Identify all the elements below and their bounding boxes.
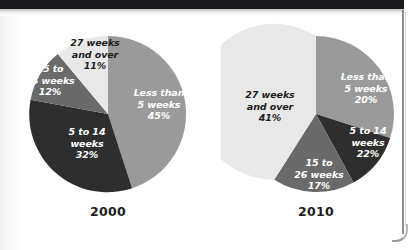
scan-top-band xyxy=(0,0,404,9)
pie-2000-graphic: Less than 5 weeks 45% 5 to 14 weeks 32% … xyxy=(13,9,203,195)
pie-2010-graphic: Less than 5 weeks 20% 5 to 14 weeks 22% … xyxy=(221,9,411,195)
scanned-page: Less than 5 weeks 45% 5 to 14 weeks 32% … xyxy=(0,0,418,250)
charts-container: Less than 5 weeks 45% 5 to 14 weeks 32% … xyxy=(0,9,403,250)
pie-2010-year-label: 2010 xyxy=(221,204,411,219)
pie-2000-year-label: 2000 xyxy=(13,204,203,219)
pie-chart-2000: Less than 5 weeks 45% 5 to 14 weeks 32% … xyxy=(13,9,203,239)
pie-chart-2010: Less than 5 weeks 20% 5 to 14 weeks 22% … xyxy=(221,9,411,239)
pie-2010-svg xyxy=(221,9,411,195)
pie-2000-svg xyxy=(13,9,203,195)
